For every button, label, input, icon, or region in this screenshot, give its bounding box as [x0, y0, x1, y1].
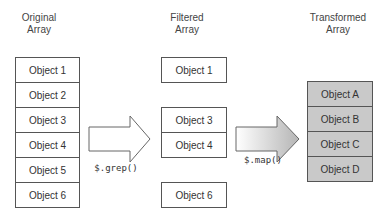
title-line: Array	[300, 24, 376, 36]
title-line: Original	[14, 12, 64, 24]
array-item: Object 4	[161, 132, 227, 158]
filtered-array-title: Filtered Array	[160, 12, 214, 36]
grep-arrow-icon	[88, 115, 152, 163]
array-item: Object 6	[15, 182, 80, 208]
array-item: Object A	[307, 81, 373, 107]
array-item: Object 3	[15, 107, 80, 133]
array-item: Object 1	[161, 57, 227, 83]
map-label: $.map()	[237, 155, 289, 165]
original-array-title: Original Array	[14, 12, 64, 36]
array-item: Object 2	[15, 82, 80, 108]
array-item: Object 3	[161, 107, 227, 133]
grep-label: $.grep()	[88, 163, 144, 173]
array-item: Object 1	[15, 57, 80, 83]
array-item: Object 6	[161, 182, 227, 208]
array-item: Object D	[307, 156, 373, 182]
array-item: Object B	[307, 106, 373, 132]
transformed-array-title: Transformed Array	[300, 12, 376, 36]
title-line: Array	[160, 24, 214, 36]
title-line: Filtered	[160, 12, 214, 24]
array-item: Object C	[307, 131, 373, 157]
array-item: Object 4	[15, 132, 80, 158]
array-item: Object 5	[15, 157, 80, 183]
title-line: Array	[14, 24, 64, 36]
title-line: Transformed	[300, 12, 376, 24]
